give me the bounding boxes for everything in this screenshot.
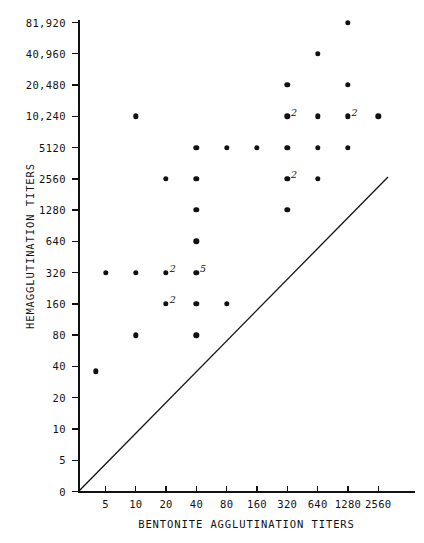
y-tick-label: 40 xyxy=(0,360,66,372)
x-tick-mark xyxy=(317,486,318,492)
x-axis-title: BENTONITE AGGLUTINATION TITERS xyxy=(78,518,415,530)
y-tick-mark xyxy=(72,241,78,242)
data-point xyxy=(133,270,138,275)
y-tick-label: 40,960 xyxy=(0,48,66,60)
data-point xyxy=(345,145,350,150)
x-tick-mark xyxy=(196,486,197,492)
data-point xyxy=(194,332,199,337)
y-tick-mark xyxy=(72,366,78,367)
data-point xyxy=(285,145,290,150)
data-point xyxy=(224,145,229,150)
data-point xyxy=(103,270,108,275)
y-tick-mark xyxy=(72,272,78,273)
data-point-count-label: 2 xyxy=(291,106,297,117)
data-point xyxy=(133,332,138,337)
data-point xyxy=(285,207,290,212)
data-point xyxy=(194,239,199,244)
data-point xyxy=(93,368,98,373)
x-tick-label: 80 xyxy=(220,498,233,510)
x-tick-label: 640 xyxy=(308,498,328,510)
data-point-count-label: 2 xyxy=(170,263,176,274)
data-point-count-label: 2 xyxy=(170,294,176,305)
x-tick-label: 2560 xyxy=(365,498,392,510)
scatter-plot-figure: 051020408016032064012802560512010,24020,… xyxy=(0,0,424,543)
data-point xyxy=(133,114,138,119)
data-point xyxy=(285,82,290,87)
y-tick-label: 10,240 xyxy=(0,110,66,122)
data-point-count-label: 2 xyxy=(352,106,358,117)
x-tick-label: 40 xyxy=(190,498,203,510)
y-tick-mark xyxy=(72,491,78,492)
data-point xyxy=(224,301,229,306)
data-point xyxy=(315,51,320,56)
x-tick-label: 5 xyxy=(102,498,109,510)
data-point xyxy=(194,301,199,306)
x-tick-label: 1280 xyxy=(335,498,362,510)
y-tick-mark xyxy=(72,147,78,148)
x-tick-mark xyxy=(135,486,136,492)
y-tick-mark xyxy=(72,22,78,23)
y-axis-title: HEMAGGLUTINATION TITERS xyxy=(24,146,36,346)
y-tick-label: 5 xyxy=(0,454,66,466)
data-point xyxy=(315,114,320,119)
y-tick-label: 0 xyxy=(0,486,66,498)
x-tick-label: 10 xyxy=(129,498,142,510)
data-point xyxy=(254,145,259,150)
data-point xyxy=(194,145,199,150)
y-tick-mark xyxy=(72,53,78,54)
y-tick-mark xyxy=(72,428,78,429)
data-point xyxy=(163,176,168,181)
x-tick-mark xyxy=(165,486,166,492)
x-tick-label: 160 xyxy=(247,498,267,510)
x-tick-mark xyxy=(256,486,257,492)
data-point xyxy=(163,301,168,306)
x-axis-line xyxy=(78,491,415,493)
data-point xyxy=(163,270,168,275)
y-tick-mark xyxy=(72,334,78,335)
data-point xyxy=(315,176,320,181)
x-tick-label: 20 xyxy=(159,498,172,510)
data-point-count-label: 5 xyxy=(200,263,206,274)
x-tick-mark xyxy=(287,486,288,492)
x-tick-mark xyxy=(105,486,106,492)
y-tick-mark xyxy=(72,209,78,210)
data-point xyxy=(285,114,290,119)
y-tick-mark xyxy=(72,303,78,304)
data-point xyxy=(345,114,350,119)
x-tick-label: 320 xyxy=(277,498,297,510)
y-tick-label: 20 xyxy=(0,392,66,404)
y-tick-mark xyxy=(72,84,78,85)
y-tick-mark xyxy=(72,178,78,179)
x-tick-mark xyxy=(226,486,227,492)
y-tick-label: 10 xyxy=(0,423,66,435)
y-tick-label: 81,920 xyxy=(0,17,66,29)
y-tick-mark xyxy=(72,397,78,398)
data-point xyxy=(315,145,320,150)
data-point-count-label: 2 xyxy=(291,169,297,180)
y-tick-label: 20,480 xyxy=(0,79,66,91)
x-tick-mark xyxy=(347,486,348,492)
data-point xyxy=(375,114,380,119)
data-point xyxy=(194,270,199,275)
data-point xyxy=(345,82,350,87)
data-point xyxy=(345,20,350,25)
y-axis-line xyxy=(78,20,80,493)
data-point xyxy=(285,176,290,181)
y-tick-mark xyxy=(72,460,78,461)
data-point xyxy=(194,176,199,181)
y-tick-mark xyxy=(72,116,78,117)
x-tick-mark xyxy=(378,486,379,492)
data-point xyxy=(194,207,199,212)
